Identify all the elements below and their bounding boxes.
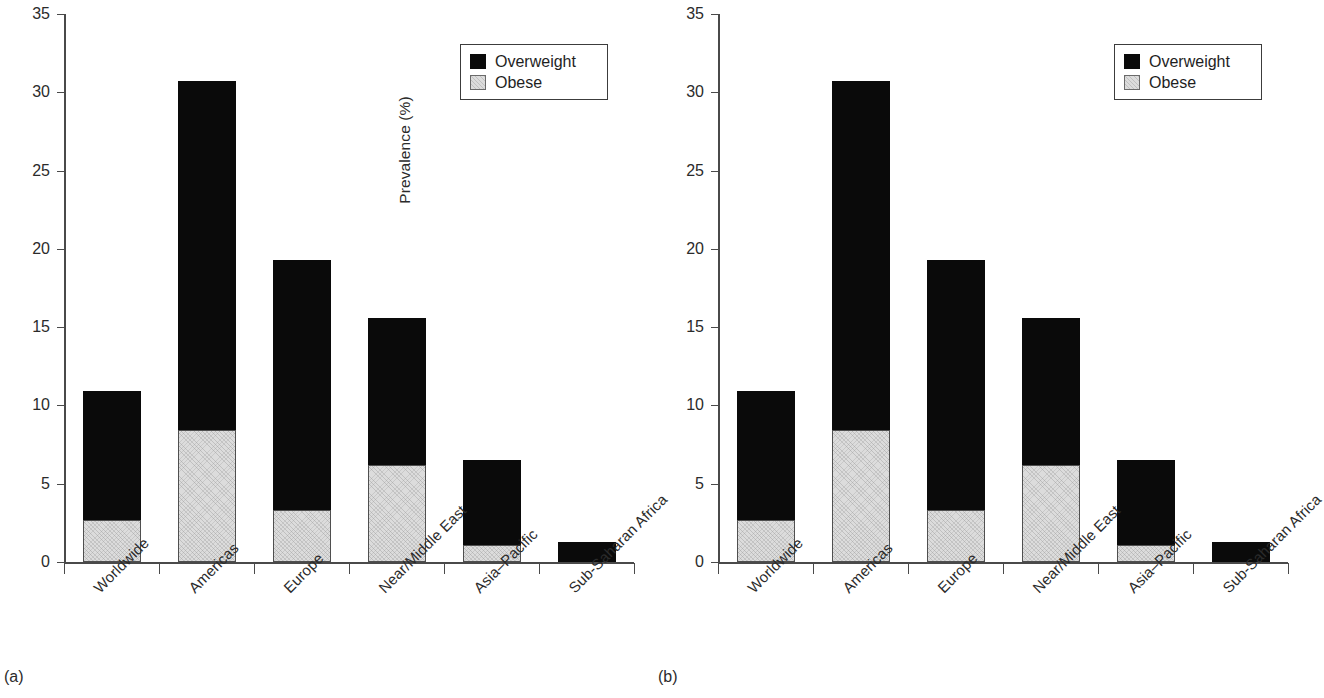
panel-caption: (b)	[658, 668, 678, 686]
x-tick-mark	[349, 563, 350, 574]
bar-worldwide	[737, 391, 795, 562]
bar-segment-obese	[273, 510, 331, 562]
y-tick-label: 30	[670, 84, 704, 100]
legend-label: Obese	[1149, 75, 1196, 91]
bar-segment-overweight	[178, 81, 236, 430]
x-tick-mark	[813, 563, 814, 574]
y-tick-mark	[57, 14, 64, 15]
y-axis-title: Prevalence (%)	[396, 20, 416, 280]
bar-segment-overweight	[832, 81, 890, 430]
y-tick-label: 0	[670, 554, 704, 570]
panel-b: Prevalence (%)05101520253035WorldwideAme…	[654, 0, 1307, 698]
x-tick-mark	[1003, 563, 1004, 574]
y-tick-mark	[711, 249, 718, 250]
y-axis-line	[718, 14, 720, 562]
legend-label: Obese	[495, 75, 542, 91]
x-tick-mark	[718, 563, 719, 574]
y-tick-mark	[57, 484, 64, 485]
y-tick-mark	[711, 327, 718, 328]
y-tick-label: 35	[16, 6, 50, 22]
bar-segment-overweight	[1022, 318, 1080, 465]
x-tick-mark	[908, 563, 909, 574]
x-tick-mark	[1193, 563, 1194, 574]
legend: OverweightObese	[460, 44, 608, 100]
y-tick-label: 25	[670, 163, 704, 179]
y-tick-mark	[57, 405, 64, 406]
x-tick-mark	[1098, 563, 1099, 574]
y-tick-mark	[711, 92, 718, 93]
y-tick-mark	[57, 562, 64, 563]
legend-entry: Obese	[1124, 72, 1249, 93]
legend-label: Overweight	[495, 54, 576, 70]
legend-entry: Overweight	[470, 51, 595, 72]
bar-segment-overweight	[83, 391, 141, 519]
legend-label: Overweight	[1149, 54, 1230, 70]
panel-caption: (a)	[4, 668, 24, 686]
y-tick-label: 10	[16, 397, 50, 413]
bar-europe	[273, 260, 331, 562]
y-tick-label: 10	[670, 397, 704, 413]
bar-segment-overweight	[463, 460, 521, 545]
x-tick-mark	[634, 563, 635, 574]
legend: OverweightObese	[1114, 44, 1262, 100]
y-tick-mark	[57, 249, 64, 250]
legend-swatch-overweight-icon	[1124, 54, 1140, 69]
bar-segment-overweight	[368, 318, 426, 465]
y-tick-mark	[711, 484, 718, 485]
bar-europe	[927, 260, 985, 562]
y-tick-mark	[57, 92, 64, 93]
x-tick-mark	[444, 563, 445, 574]
bar-near-middle-east	[368, 318, 426, 562]
panel-a: Prevalence (%)05101520253035WorldwideAme…	[0, 0, 653, 698]
y-tick-label: 20	[670, 241, 704, 257]
bar-segment-overweight	[927, 260, 985, 510]
y-tick-mark	[57, 327, 64, 328]
y-tick-mark	[711, 14, 718, 15]
x-tick-mark	[539, 563, 540, 574]
y-tick-label: 35	[670, 6, 704, 22]
y-tick-mark	[711, 171, 718, 172]
bar-segment-overweight	[1117, 460, 1175, 545]
y-tick-label: 5	[16, 476, 50, 492]
y-tick-label: 15	[670, 319, 704, 335]
y-tick-label: 20	[16, 241, 50, 257]
bar-segment-obese	[927, 510, 985, 562]
legend-entry: Obese	[470, 72, 595, 93]
y-tick-label: 0	[16, 554, 50, 570]
y-tick-label: 30	[16, 84, 50, 100]
bar-worldwide	[83, 391, 141, 562]
x-tick-mark	[64, 563, 65, 574]
legend-swatch-overweight-icon	[470, 54, 486, 69]
legend-swatch-obese-icon	[1124, 75, 1140, 90]
legend-entry: Overweight	[1124, 51, 1249, 72]
bar-segment-overweight	[737, 391, 795, 519]
y-tick-label: 5	[670, 476, 704, 492]
bar-americas	[832, 81, 890, 562]
y-tick-mark	[57, 171, 64, 172]
x-tick-mark	[1288, 563, 1289, 574]
legend-swatch-obese-icon	[470, 75, 486, 90]
y-axis-line	[64, 14, 66, 562]
y-tick-label: 15	[16, 319, 50, 335]
bar-near-middle-east	[1022, 318, 1080, 562]
bar-americas	[178, 81, 236, 562]
y-tick-label: 25	[16, 163, 50, 179]
y-tick-mark	[711, 405, 718, 406]
bar-segment-overweight	[273, 260, 331, 510]
x-tick-mark	[159, 563, 160, 574]
y-tick-mark	[711, 562, 718, 563]
x-tick-mark	[254, 563, 255, 574]
